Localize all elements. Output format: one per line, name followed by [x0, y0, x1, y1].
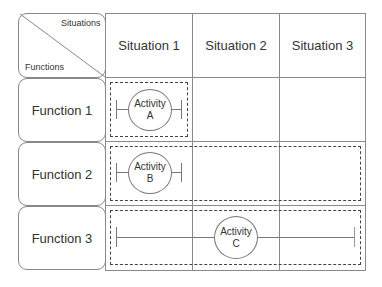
activity-a-end-tick	[181, 100, 182, 119]
grid-row-1	[105, 77, 366, 78]
activity-a-label: Activity	[134, 98, 166, 110]
row-header-function-1: Function 1	[18, 78, 106, 142]
column-header-situation-1: Situation 1	[106, 14, 192, 77]
activity-b-end-tick	[181, 163, 182, 182]
corner-functions-label: Functions	[25, 62, 64, 72]
grid-row-2	[105, 141, 366, 142]
row-header-function-2: Function 2	[18, 142, 106, 206]
grid-col-3	[365, 13, 366, 271]
activity-b-node: Activity B	[128, 152, 172, 194]
activity-b-start-tick	[116, 163, 117, 182]
corner-situations-label: Situations	[61, 18, 101, 28]
activity-c-end-tick	[354, 227, 355, 247]
activity-b-label: Activity	[134, 161, 166, 173]
activity-a-id: A	[147, 110, 154, 122]
grid-bottom	[105, 270, 366, 271]
activity-a-node: Activity A	[128, 89, 172, 131]
column-header-situation-2: Situation 2	[193, 14, 279, 77]
grid-row-3	[105, 205, 366, 206]
activity-c-label: Activity	[220, 226, 252, 238]
activity-b-id: B	[147, 173, 154, 185]
row-header-function-3: Function 3	[18, 206, 106, 270]
activity-c-id: C	[232, 238, 239, 250]
activity-c-node: Activity C	[214, 216, 258, 259]
activity-a-start-tick	[116, 100, 117, 119]
activity-c-start-tick	[116, 227, 117, 247]
column-header-situation-3: Situation 3	[280, 14, 365, 77]
